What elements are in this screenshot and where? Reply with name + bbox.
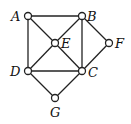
node-a xyxy=(25,13,32,20)
node-g xyxy=(52,95,59,102)
edge-d-g xyxy=(28,71,55,98)
graph-edges xyxy=(28,16,109,98)
node-label-d: D xyxy=(9,64,21,79)
edge-a-e xyxy=(28,16,55,43)
node-label-f: F xyxy=(114,36,125,51)
graph-labels: ABEFDCG xyxy=(9,9,125,120)
node-b xyxy=(79,13,86,20)
node-label-g: G xyxy=(50,105,60,120)
node-c xyxy=(79,68,86,75)
node-label-e: E xyxy=(60,36,71,51)
edge-e-d xyxy=(28,43,55,71)
node-label-c: C xyxy=(88,65,98,80)
node-label-b: B xyxy=(86,9,97,24)
node-e xyxy=(52,40,59,47)
graph-diagram: ABEFDCG xyxy=(0,0,131,124)
node-label-a: A xyxy=(10,9,20,24)
edge-g-c xyxy=(55,71,82,98)
node-d xyxy=(25,68,32,75)
node-f xyxy=(106,40,113,47)
